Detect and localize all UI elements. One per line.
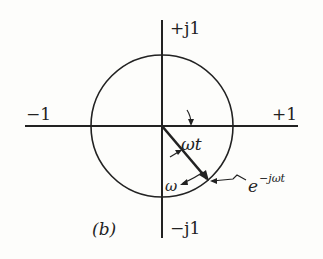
label-phasor-exponent: −jωt [259, 172, 285, 185]
label-pointer-arrowhead [210, 178, 217, 184]
label-positive-imag: +j1 [170, 20, 200, 37]
label-angle: ωt [181, 136, 202, 153]
rotation-arrowhead [180, 179, 188, 185]
label-angular-velocity: ω [165, 179, 177, 194]
label-positive-real: +1 [272, 106, 297, 123]
label-negative-real: −1 [26, 106, 51, 123]
label-negative-imag: −j1 [170, 220, 200, 237]
panel-label: (b) [92, 221, 116, 238]
label-pointer [212, 175, 246, 181]
label-phasor-base: e [248, 178, 258, 195]
unit-circle-diagram [0, 0, 323, 259]
angle-arrowhead-top [188, 119, 194, 126]
